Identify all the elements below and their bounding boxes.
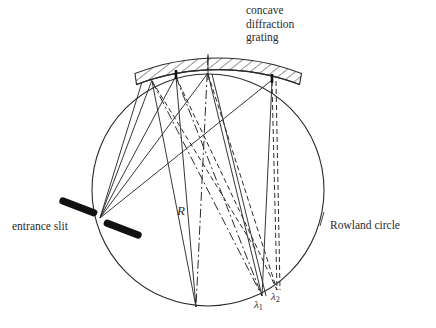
zero-order-dashdot-rays [152,56,262,307]
lambda1-ray-g2 [176,77,196,307]
entrance-slit-label: entrance slit [12,220,68,234]
concave-diffraction-grating-label: concave diffraction grating [246,4,294,45]
lambda2-label: λ2 [271,290,280,304]
rowland-circle-label: Rowland circle [330,219,400,233]
optical-schematic-svg [0,0,436,328]
lambda1-ray-g3b [212,74,266,296]
dashdot-axis-upper [196,56,208,307]
entrance-slit-jaw-lower [103,219,143,240]
dashdot-ray-g2 [176,77,262,296]
radius-label: R [177,203,185,218]
lambda1-ray-g4 [262,81,272,296]
grating-label-line-3: grating [246,31,294,45]
lambda1-subscript: 1 [259,303,263,312]
lambda2-subscript: 2 [276,295,280,304]
figure-canvas: concave diffraction grating entrance sli… [0,0,436,328]
dashdot-ray-g1 [152,81,262,296]
grating-label-line-2: diffraction [246,18,294,32]
lambda2-ray-g2 [176,77,277,290]
lambda2-ray-g1 [152,81,256,250]
diffracted-rays-lambda1 [152,74,272,307]
lambda2-ray-g3 [208,74,277,290]
grating-label-line-1: concave [246,4,294,18]
lambda1-ray-g1 [152,81,196,307]
lambda2-ray-g4 [272,81,277,290]
concave-grating-band [135,58,302,85]
lambda1-label: λ1 [254,298,263,312]
incident-ray-edge [100,82,142,218]
